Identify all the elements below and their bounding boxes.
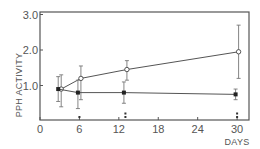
pph-activity-chart: 1.02.03.0 0612182430 PPH ACTIVITY DAYS — [0, 0, 260, 149]
open-circle-marker — [236, 50, 240, 54]
filled-marker — [122, 91, 126, 95]
filled-marker — [76, 91, 80, 95]
plot-border — [40, 12, 249, 120]
x-tick-label: 12 — [113, 123, 125, 135]
y-tick-label: 3.0 — [23, 9, 38, 21]
significance-dot — [236, 116, 238, 118]
open-circle-marker — [125, 67, 129, 71]
series-line — [58, 89, 235, 94]
x-tick-label: 24 — [192, 123, 204, 135]
significance-dot — [124, 116, 126, 118]
x-tick-label: 0 — [37, 123, 43, 135]
data-series — [56, 25, 241, 108]
x-tick-label: 18 — [152, 123, 164, 135]
x-tick-label: 6 — [76, 123, 82, 135]
y-axis-title: PPH ACTIVITY — [14, 53, 24, 118]
y-tick-label: 1.0 — [23, 80, 38, 92]
significance-dot — [124, 113, 126, 115]
filled-marker — [234, 92, 238, 96]
series-line — [61, 52, 238, 89]
filled-marker — [56, 87, 60, 91]
x-tick-label: 30 — [231, 123, 243, 135]
y-tick-label: 2.0 — [23, 44, 38, 56]
significance-dot — [78, 116, 80, 118]
plot-frame — [40, 12, 249, 120]
x-axis-title: DAYS — [224, 137, 249, 147]
significance-dot — [236, 113, 238, 115]
